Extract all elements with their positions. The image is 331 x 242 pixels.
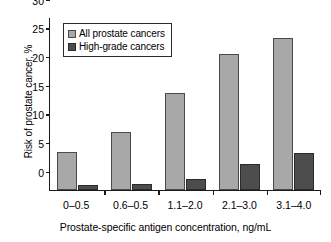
x-axis-tick-label: 2.1–3.0 [212, 199, 266, 211]
x-axis-tick-mark [213, 190, 214, 195]
y-axis-tick: 15 [28, 77, 50, 95]
x-axis-tick-label: 1.1–2.0 [158, 199, 212, 211]
chart-legend: All prostate cancersHigh-grade cancers [63, 23, 172, 57]
y-axis-tick-label: 25 [28, 23, 44, 35]
x-axis-tick-mark [104, 190, 105, 195]
bar-high-grade-cancers[interactable] [132, 184, 152, 190]
y-axis-tick-label: 5 [28, 138, 44, 150]
x-axis-tick-labels: 0–0.50.6–0.51.1–2.02.1–3.03.1–4.0 [49, 199, 321, 211]
x-axis-tick-label: 0–0.5 [49, 199, 103, 211]
y-axis-tick: 25 [28, 20, 50, 38]
bar-all-prostate-cancers[interactable] [273, 38, 293, 191]
legend-item[interactable]: High-grade cancers [68, 40, 165, 53]
bar-group [213, 18, 267, 190]
legend-item-label: High-grade cancers [79, 41, 164, 52]
bar-chart-figure: Risk of prostate cancer, % 051015202530 … [0, 0, 331, 242]
bar-all-prostate-cancers[interactable] [219, 54, 239, 190]
bar-high-grade-cancers[interactable] [294, 153, 314, 190]
y-axis-tick-label: 10 [28, 109, 44, 121]
legend-swatch-icon [68, 30, 76, 38]
y-axis-tick: 30 [28, 0, 50, 9]
y-axis-tick: 10 [28, 106, 50, 124]
x-axis-title: Prostate-specific antigen concentration,… [0, 221, 331, 233]
bar-group [267, 18, 321, 190]
x-axis-tick-label: 3.1–4.0 [267, 199, 321, 211]
legend-item-label: All prostate cancers [79, 28, 165, 39]
x-axis-tick-mark [267, 190, 268, 195]
bar-high-grade-cancers[interactable] [186, 179, 206, 190]
bar-all-prostate-cancers[interactable] [57, 152, 77, 190]
y-axis-tick: 0 [28, 163, 50, 181]
x-axis-tick-mark [320, 190, 321, 195]
bar-all-prostate-cancers[interactable] [111, 132, 131, 190]
y-axis-tick-label: 15 [28, 81, 44, 93]
bar-high-grade-cancers[interactable] [78, 185, 98, 190]
legend-swatch-icon [68, 43, 76, 51]
y-axis-tick-label: 20 [28, 52, 44, 64]
legend-item[interactable]: All prostate cancers [68, 27, 165, 40]
y-axis-tick: 5 [28, 134, 50, 152]
y-axis-tick: 20 [28, 48, 50, 66]
x-axis-tick-mark [158, 190, 159, 195]
bar-all-prostate-cancers[interactable] [165, 93, 185, 190]
x-axis-tick-label: 0.6–0.5 [103, 199, 157, 211]
y-axis-tick-label: 0 [28, 167, 44, 179]
bar-high-grade-cancers[interactable] [240, 164, 260, 190]
y-axis-tick-mark [46, 0, 50, 1]
y-axis-tick-label: 30 [28, 0, 44, 7]
